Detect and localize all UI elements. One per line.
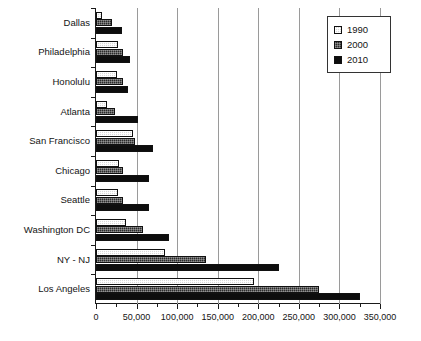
value-tick-minor — [116, 304, 117, 307]
bar — [96, 197, 123, 204]
value-tick-label: 100,000 — [161, 312, 194, 322]
value-tick-major — [177, 304, 178, 309]
bar — [96, 286, 319, 293]
bar-group — [96, 274, 380, 304]
legend-label: 1990 — [347, 25, 368, 35]
value-tick-label: 350,000 — [364, 312, 397, 322]
bar-group — [96, 186, 380, 216]
bar-group — [96, 245, 380, 275]
value-tick-major — [299, 304, 300, 309]
bar-chart: DallasPhiladelphiaHonoluluAtlantaSan Fra… — [0, 0, 421, 341]
value-tick-major — [339, 304, 340, 309]
bar — [96, 204, 149, 211]
value-tick-label: 200,000 — [242, 312, 275, 322]
bar-group — [96, 215, 380, 245]
bar — [96, 19, 112, 26]
value-tick-minor — [238, 304, 239, 307]
category-axis-ticks — [0, 8, 96, 304]
bar — [96, 101, 107, 108]
value-tick-major — [137, 304, 138, 309]
bar — [96, 71, 117, 78]
bar — [96, 256, 206, 263]
bar — [96, 145, 153, 152]
bar — [96, 138, 135, 145]
value-tick-label: 250,000 — [283, 312, 316, 322]
value-tick-minor — [319, 304, 320, 307]
bar-group — [96, 156, 380, 186]
bar — [96, 189, 118, 196]
value-tick-major — [380, 304, 381, 309]
bar — [96, 219, 126, 226]
bar — [96, 234, 169, 241]
value-tick-major — [96, 304, 97, 309]
bar — [96, 116, 138, 123]
value-axis-labels: 050,000100,000150,000200,000250,000300,0… — [0, 312, 421, 328]
legend-swatch-2000-icon — [334, 41, 342, 49]
bar — [96, 249, 165, 256]
bar — [96, 226, 143, 233]
legend-item: 2000 — [334, 37, 384, 52]
bar — [96, 264, 279, 271]
value-tick-minor — [197, 304, 198, 307]
bar — [96, 278, 254, 285]
legend-item: 1990 — [334, 22, 384, 37]
value-tick-major — [218, 304, 219, 309]
value-tick-label: 0 — [93, 312, 98, 322]
bar — [96, 56, 130, 63]
bar — [96, 12, 102, 19]
value-tick-label: 150,000 — [201, 312, 234, 322]
legend-label: 2010 — [347, 55, 368, 65]
value-tick-label: 300,000 — [323, 312, 356, 322]
bar-group — [96, 126, 380, 156]
value-axis-ticks — [96, 304, 380, 312]
bar — [96, 41, 118, 48]
bar — [96, 175, 149, 182]
bar — [96, 49, 123, 56]
value-tick-minor — [360, 304, 361, 307]
bar — [96, 167, 123, 174]
bar — [96, 293, 360, 300]
bar — [96, 86, 128, 93]
value-tick-minor — [157, 304, 158, 307]
bar-group — [96, 97, 380, 127]
bar — [96, 160, 119, 167]
value-tick-minor — [279, 304, 280, 307]
bar — [96, 130, 133, 137]
legend: 199020002010 — [327, 16, 391, 73]
bar — [96, 78, 123, 85]
value-tick-major — [258, 304, 259, 309]
legend-swatch-2010-icon — [334, 56, 342, 64]
legend-item: 2010 — [334, 52, 384, 67]
bar — [96, 27, 122, 34]
bar — [96, 108, 115, 115]
value-tick-label: 50,000 — [123, 312, 151, 322]
legend-swatch-1990-icon — [334, 26, 342, 34]
legend-label: 2000 — [347, 40, 368, 50]
